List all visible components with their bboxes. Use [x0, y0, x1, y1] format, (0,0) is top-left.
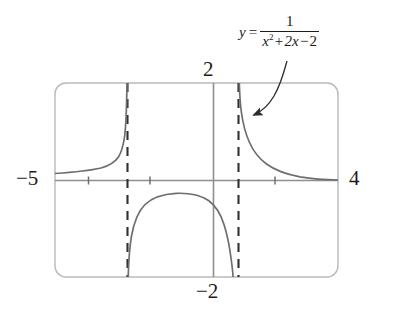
graph-canvas [0, 0, 395, 313]
denominator-exponent: 2 [269, 32, 274, 42]
equation-annotation: y = 1 x2+2x−2 [239, 14, 319, 50]
equation-fraction: 1 x2+2x−2 [260, 14, 319, 50]
fraction-denominator: x2+2x−2 [260, 32, 319, 50]
equation-lhs: y [239, 25, 248, 40]
y-max-label: 2 [203, 59, 214, 80]
denominator-two-x: 2x [284, 33, 299, 49]
x-max-label: 4 [349, 168, 360, 189]
fraction-numerator: 1 [282, 14, 298, 31]
denominator-constant: 2 [310, 33, 318, 49]
y-min-label: −2 [196, 281, 218, 302]
denominator-plus: + [274, 33, 285, 49]
graph-figure: −5 4 2 −2 y = 1 x2+2x−2 [0, 0, 395, 313]
x-min-label: −5 [16, 168, 38, 189]
denominator-x: x [262, 33, 269, 49]
denominator-minus: − [299, 33, 310, 49]
equation-equals-sign: = [248, 25, 260, 40]
